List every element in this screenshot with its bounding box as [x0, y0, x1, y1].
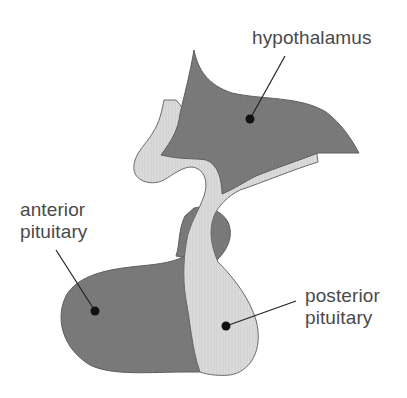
hypothalamus-label: hypothalamus [252, 27, 372, 49]
posterior-pituitary-label: posterior pituitary [305, 285, 380, 329]
hypothalamus-region [161, 50, 359, 194]
posterior-pituitary-label-line2: pituitary [305, 307, 380, 329]
anterior-pituitary-label: anterior pituitary [20, 199, 87, 243]
anterior-pituitary-label-line1: anterior [20, 199, 87, 221]
anterior-pituitary-region [61, 255, 200, 373]
hypothalamus-pointer-dot [246, 115, 255, 124]
posterior-pituitary-pointer-dot [222, 322, 231, 331]
posterior-pituitary-label-line1: posterior [305, 285, 380, 307]
anterior-pituitary-pointer-dot [91, 307, 100, 316]
hypothalamus-label-text: hypothalamus [252, 27, 372, 49]
anterior-pituitary-label-line2: pituitary [20, 221, 87, 243]
